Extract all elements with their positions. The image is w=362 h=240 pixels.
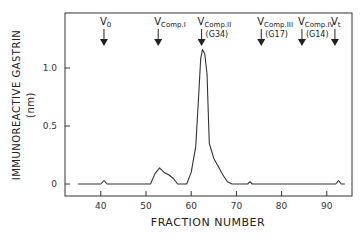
marker-v-t: Vt bbox=[331, 16, 341, 46]
svg-text:VComp.II: VComp.II bbox=[198, 16, 232, 29]
marker-v-comp-i: VComp.I bbox=[154, 16, 186, 46]
marker-v-0: V0 bbox=[100, 16, 111, 46]
arrow-head-icon bbox=[257, 39, 265, 46]
svg-text:(nm): (nm) bbox=[25, 92, 36, 118]
y-axis-title: IMMUNOREACTIVE GASTRIN (nm) bbox=[11, 30, 36, 181]
svg-text:V0: V0 bbox=[100, 16, 111, 29]
x-tick-label: 70 bbox=[231, 201, 243, 211]
arrow-head-icon bbox=[298, 39, 306, 46]
arrow-head-icon bbox=[198, 39, 206, 46]
svg-text:VComp.III: VComp.III bbox=[257, 16, 293, 29]
x-axis: 405060708090 bbox=[95, 191, 333, 211]
x-tick-label: 90 bbox=[321, 201, 333, 211]
x-tick-label: 80 bbox=[276, 201, 288, 211]
y-tick-label: 0.5 bbox=[43, 121, 57, 131]
svg-text:(G17): (G17) bbox=[265, 30, 288, 39]
marker-v-comp-iv: VComp.IV(G14) bbox=[298, 16, 335, 46]
svg-text:(G34): (G34) bbox=[206, 30, 229, 39]
x-tick-label: 50 bbox=[140, 201, 152, 211]
chart: 00.51.0 405060708090 V0VComp.IVComp.II(G… bbox=[0, 0, 362, 240]
x-tick-label: 60 bbox=[185, 201, 197, 211]
y-axis: 00.51.0 bbox=[43, 63, 70, 189]
svg-text:IMMUNOREACTIVE GASTRIN: IMMUNOREACTIVE GASTRIN bbox=[11, 30, 22, 181]
svg-text:VComp.IV: VComp.IV bbox=[298, 16, 335, 29]
elution-markers: V0VComp.IVComp.II(G34)VComp.III(G17)VCom… bbox=[100, 16, 341, 46]
marker-v-comp-ii: VComp.II(G34) bbox=[198, 16, 232, 46]
y-tick-label: 1.0 bbox=[43, 63, 58, 73]
arrow-head-icon bbox=[154, 39, 162, 46]
svg-text:(G14): (G14) bbox=[306, 30, 329, 39]
x-tick-label: 40 bbox=[95, 201, 107, 211]
arrow-head-icon bbox=[100, 39, 108, 46]
arrow-head-icon bbox=[331, 39, 339, 46]
svg-text:VComp.I: VComp.I bbox=[154, 16, 186, 29]
gastrin-elution-curve bbox=[78, 49, 345, 184]
x-axis-title: FRACTION NUMBER bbox=[151, 216, 265, 229]
marker-v-comp-iii: VComp.III(G17) bbox=[257, 16, 293, 46]
y-tick-label: 0 bbox=[51, 179, 57, 189]
